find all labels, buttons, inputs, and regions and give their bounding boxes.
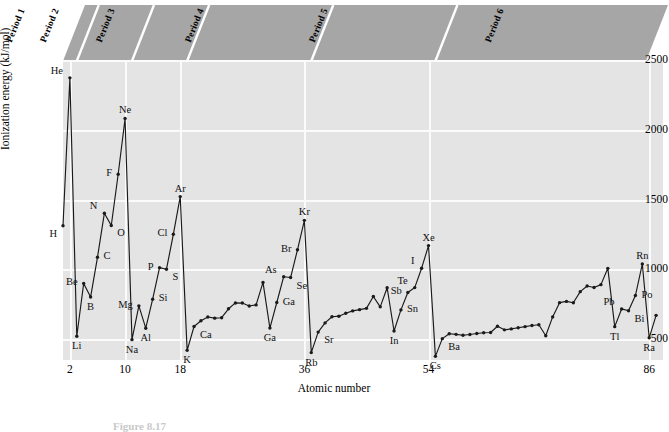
point-label-h: H xyxy=(49,229,57,240)
data-point-br xyxy=(296,248,299,251)
point-label-he: He xyxy=(51,66,63,77)
point-label-p: P xyxy=(148,262,154,273)
point-label-ra: Ra xyxy=(643,343,655,354)
data-point-w xyxy=(565,300,568,303)
data-point-te xyxy=(413,286,416,289)
data-point-ho xyxy=(516,326,519,329)
point-label-na: Na xyxy=(126,345,138,356)
data-point-os xyxy=(579,290,582,293)
data-point-mn xyxy=(227,307,230,310)
point-label-be: Be xyxy=(66,277,78,288)
data-point-ti xyxy=(206,315,209,318)
data-point-cu xyxy=(254,303,257,306)
x-tick-36: 36 xyxy=(284,363,324,375)
point-label-ca: Ca xyxy=(200,330,212,341)
data-point-li xyxy=(75,335,78,338)
point-label-f: F xyxy=(106,168,112,179)
data-point-ag xyxy=(379,305,382,308)
point-label-sb: Sb xyxy=(391,286,402,297)
data-point-cr xyxy=(220,316,223,319)
data-point-nb xyxy=(337,314,340,317)
data-point-se xyxy=(289,276,292,279)
data-point-nd xyxy=(468,333,471,336)
point-label-si: Si xyxy=(159,293,168,304)
data-point-ar xyxy=(179,195,182,198)
data-point-rh xyxy=(365,307,368,310)
data-point-tl xyxy=(613,325,616,328)
point-label-br: Br xyxy=(281,244,292,255)
data-point-re xyxy=(572,301,575,304)
data-point-lu xyxy=(544,334,547,337)
data-point-dy xyxy=(510,327,513,330)
data-point-sn xyxy=(399,308,402,311)
data-point-si xyxy=(151,297,154,300)
point-label-as: As xyxy=(265,265,277,276)
data-point-p xyxy=(158,266,161,269)
data-point-hf xyxy=(551,315,554,318)
data-point-zr xyxy=(330,315,333,318)
data-point-pb xyxy=(620,307,623,310)
point-label-ga: Ga xyxy=(264,333,276,344)
data-point-ac xyxy=(654,314,657,317)
data-point-pr xyxy=(461,334,464,337)
point-label-se: Se xyxy=(297,281,308,292)
data-point-gd xyxy=(496,325,499,328)
point-label-xe: Xe xyxy=(422,233,434,244)
point-label-li: Li xyxy=(72,341,81,352)
data-point-ga xyxy=(268,326,271,329)
data-point-yb xyxy=(537,323,540,326)
data-point-k xyxy=(185,349,188,352)
data-point-f xyxy=(116,173,119,176)
data-point-au xyxy=(599,283,602,286)
data-point-tc xyxy=(351,309,354,312)
data-point-ir xyxy=(585,284,588,287)
data-point-ca xyxy=(192,325,195,328)
data-point-ce xyxy=(454,333,457,336)
data-point-s xyxy=(165,268,168,271)
y-tick-1000: 1000 xyxy=(610,262,668,274)
x-tick-2: 2 xyxy=(50,363,90,375)
point-label-i: I xyxy=(411,256,415,267)
data-point-he xyxy=(68,76,71,79)
data-point-as xyxy=(282,275,285,278)
data-point-ne xyxy=(123,117,126,120)
point-label-al: Al xyxy=(141,333,152,344)
point-label-b: B xyxy=(87,302,94,313)
data-point-xe xyxy=(427,244,430,247)
data-point-be xyxy=(82,282,85,285)
data-point-in xyxy=(392,329,395,332)
x-tick-86: 86 xyxy=(629,363,669,375)
data-point-y xyxy=(323,321,326,324)
point-label-mg: Mg xyxy=(118,300,133,311)
point-label-sr: Sr xyxy=(324,335,333,346)
point-label-po: Po xyxy=(641,290,652,301)
data-point-cd xyxy=(385,286,388,289)
data-point-al xyxy=(144,326,147,329)
data-point-h xyxy=(61,224,64,227)
point-label-sn: Sn xyxy=(407,304,418,315)
data-point-fe xyxy=(234,301,237,304)
data-point-ta xyxy=(558,301,561,304)
data-point-rb xyxy=(310,351,313,354)
data-point-i xyxy=(420,266,423,269)
plot-area: HHeLiBeBCNOFNeNaMgAlSiPSClArKCaGaGaAsSeB… xyxy=(63,60,663,360)
point-label-ba: Ba xyxy=(448,342,460,353)
y-tick-2500: 2500 xyxy=(610,53,668,65)
data-point-na xyxy=(130,338,133,341)
y-tick-1500: 1500 xyxy=(610,193,668,205)
data-point-zn xyxy=(261,281,264,284)
data-point-sb xyxy=(406,291,409,294)
point-label-rn: Rn xyxy=(636,251,648,262)
point-label-kr: Kr xyxy=(299,207,310,218)
x-tick-10: 10 xyxy=(105,363,145,375)
x-tick-18: 18 xyxy=(160,363,200,375)
data-point-cs xyxy=(434,355,437,358)
point-label-ne: Ne xyxy=(119,105,131,116)
data-point-sr xyxy=(316,330,319,333)
period-banner: Period 1Period 2Period 3Period 4Period 5… xyxy=(63,5,668,61)
data-point-bi xyxy=(627,309,630,312)
point-label-te: Te xyxy=(397,276,407,287)
data-point-co xyxy=(241,301,244,304)
data-point-pt xyxy=(592,286,595,289)
x-axis-title: Atomic number xyxy=(0,382,668,394)
